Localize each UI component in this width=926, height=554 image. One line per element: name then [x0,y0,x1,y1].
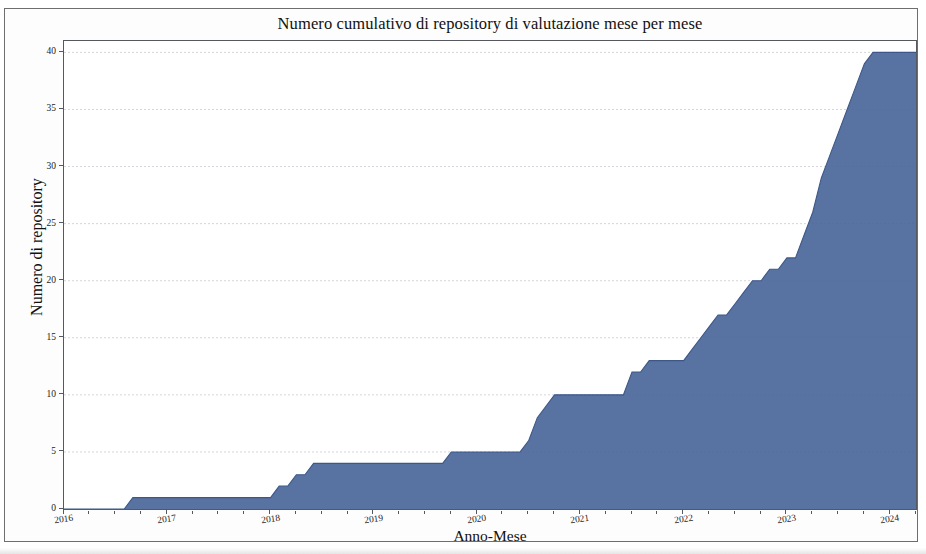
x-tick-2021: 2021 [570,513,590,526]
x-tick-mark-minor [424,511,425,514]
x-tick-mark-minor [682,511,683,514]
x-tick-mark-minor [605,511,606,514]
x-tick-mark-minor [269,511,270,514]
x-tick-mark-minor [811,511,812,514]
y-tick-30: 30 [16,161,56,171]
x-tick-2022: 2022 [673,513,693,526]
x-tick-mark-minor [527,511,528,514]
x-tick-mark-minor [398,511,399,514]
x-tick-mark-minor [372,511,373,514]
x-tick-mark-minor [631,511,632,514]
x-tick-mark-minor [114,511,115,514]
x-tick-mark-minor [295,511,296,514]
x-tick-mark-minor [166,511,167,514]
chart-title: Numero cumulativo di repository di valut… [63,14,917,34]
x-tick-mark-minor [553,511,554,514]
x-tick-mark-minor [450,511,451,514]
y-tick-10: 10 [16,389,56,399]
x-tick-mark-minor [476,511,477,514]
x-tick-2020: 2020 [467,513,487,526]
y-tick-20: 20 [16,275,56,285]
x-tick-mark-minor [140,511,141,514]
x-tick-mark-minor [863,511,864,514]
x-tick-2024: 2024 [880,513,900,526]
x-axis-tick-labels: 201620172018201920202021202220232024 [0,514,926,534]
y-tick-40: 40 [16,46,56,56]
x-tick-mark-minor [192,511,193,514]
x-tick-2017: 2017 [157,513,177,526]
x-tick-mark-minor [243,511,244,514]
y-axis-tick-labels: 0510152025303540 [8,0,56,554]
x-tick-mark-minor [347,511,348,514]
x-tick-mark-minor [321,511,322,514]
y-tick-5: 5 [16,446,56,456]
x-tick-mark-minor [579,511,580,514]
x-tick-2016: 2016 [54,513,74,526]
x-tick-mark-minor [63,511,64,514]
x-tick-mark-minor [785,511,786,514]
x-tick-mark-minor [217,511,218,514]
x-tick-mark-minor [734,511,735,514]
x-tick-mark-minor [837,511,838,514]
x-tick-mark-minor [656,511,657,514]
x-tick-2023: 2023 [776,513,796,526]
x-tick-mark-minor [915,511,916,514]
x-tick-mark-minor [501,511,502,514]
scan-edge-shadow [0,548,926,554]
x-tick-mark-minor [760,511,761,514]
x-tick-2018: 2018 [260,513,280,526]
plot-area [63,40,917,510]
y-tick-0: 0 [16,503,56,513]
y-tick-15: 15 [16,332,56,342]
x-tick-mark-minor [889,511,890,514]
x-tick-mark-minor [708,511,709,514]
x-tick-2019: 2019 [363,513,383,526]
y-tick-25: 25 [16,218,56,228]
y-tick-35: 35 [16,103,56,113]
area-chart-svg [64,41,916,509]
x-tick-mark-minor [88,511,89,514]
